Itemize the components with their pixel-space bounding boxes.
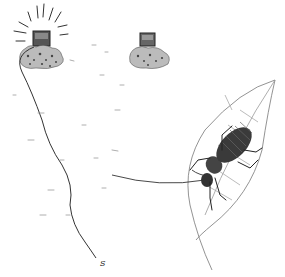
- label-s: S: [100, 259, 106, 268]
- house-right: [130, 33, 170, 69]
- ground-specks: [13, 45, 124, 215]
- trail-line: [20, 47, 96, 258]
- house-left: [20, 31, 64, 69]
- illustration: S: [0, 0, 285, 277]
- shrub-left: [20, 45, 64, 68]
- antenna: [112, 175, 205, 183]
- insect-head: [201, 173, 213, 187]
- shrub-right: [130, 47, 170, 69]
